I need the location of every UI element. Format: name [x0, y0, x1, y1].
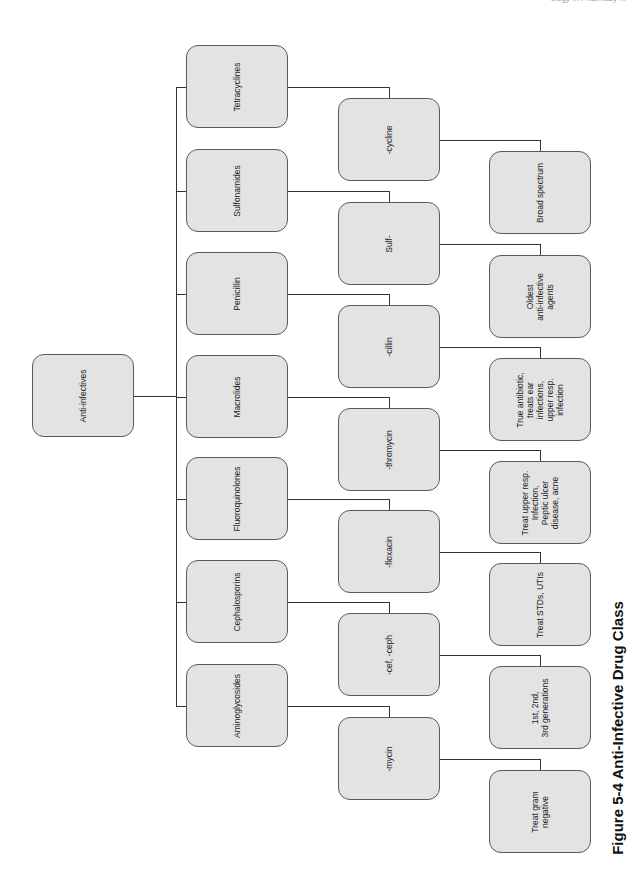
- suffix-note-connector-h: [440, 450, 540, 451]
- class-node-label: Cephalosporins: [232, 562, 242, 642]
- suffix-note-connector-v: [540, 655, 541, 666]
- suffix-node: -floxacin: [338, 510, 440, 593]
- note-node: Treat STDs, UTIs: [489, 563, 591, 646]
- suffix-node-label: -mycin: [384, 719, 394, 799]
- note-node: Oldest anti-infective agents: [489, 255, 591, 338]
- suffix-node-label: -cef, -ceph: [384, 615, 394, 695]
- figure-caption: Figure 5-4 Anti-Infective Drug Class: [609, 601, 626, 855]
- class-node: Tetracyclines: [186, 45, 288, 128]
- class-stub-connector: [176, 87, 186, 88]
- class-suffix-connector-v: [389, 87, 390, 98]
- note-node-label: Broad spectrum: [535, 153, 545, 233]
- class-suffix-connector-h: [288, 602, 389, 603]
- suffix-note-connector-h: [440, 244, 540, 245]
- class-node-label: Fluoroquinolones: [232, 459, 242, 539]
- class-suffix-connector-h: [288, 397, 389, 398]
- class-suffix-connector-v: [389, 397, 390, 408]
- suffix-node-label: Sulf-: [384, 204, 394, 284]
- root-node: Anti-infectives: [32, 354, 134, 437]
- class-node-label: Sulfonamides: [232, 151, 242, 231]
- class-suffix-connector-h: [288, 87, 389, 88]
- class-node: Aminoglycosides: [186, 664, 288, 747]
- note-node: 1st, 2nd, 3rd generations: [489, 666, 591, 749]
- class-suffix-connector-v: [389, 499, 390, 510]
- suffix-note-connector-h: [440, 552, 540, 553]
- suffix-node-label: -floxacin: [384, 512, 394, 592]
- suffix-note-connector-v: [540, 450, 541, 461]
- suffix-node: -mycin: [338, 717, 440, 800]
- class-stub-connector: [176, 191, 186, 192]
- class-node: Sulfonamides: [186, 149, 288, 232]
- class-suffix-connector-h: [288, 499, 389, 500]
- class-node: Fluoroquinolones: [186, 457, 288, 540]
- note-node-label: Treat upper resp. Infection, Peptic ulce…: [520, 463, 560, 543]
- suffix-node-label: -cycline: [384, 100, 394, 180]
- class-stub-connector: [176, 602, 186, 603]
- suffix-node: -cef, -ceph: [338, 613, 440, 696]
- note-node: Treat upper resp. Infection, Peptic ulce…: [489, 461, 591, 544]
- suffix-note-connector-h: [440, 347, 540, 348]
- suffix-node-label: -thromycin: [384, 410, 394, 490]
- suffix-note-connector-v: [540, 140, 541, 151]
- note-node-label: Oldest anti-infective agents: [525, 257, 555, 337]
- class-suffix-connector-h: [288, 294, 389, 295]
- class-node-label: Tetracyclines: [232, 47, 242, 127]
- note-node-label: True antibiotic, treats ear infections, …: [515, 360, 565, 440]
- running-header: ology ... Pharmacy ...: [551, 0, 626, 3]
- note-node: True antibiotic, treats ear infections, …: [489, 358, 591, 441]
- class-node-label: Macrolides: [232, 357, 242, 437]
- note-node-label: Treat gram negative: [530, 772, 550, 852]
- suffix-node-label: -cillin: [384, 307, 394, 387]
- class-suffix-connector-v: [389, 706, 390, 717]
- class-node: Penicillin: [186, 252, 288, 335]
- class-stub-connector: [176, 706, 186, 707]
- suffix-node: -cycline: [338, 98, 440, 181]
- class-suffix-connector-h: [288, 706, 389, 707]
- suffix-note-connector-h: [440, 140, 540, 141]
- note-node-label: 1st, 2nd, 3rd generations: [530, 668, 550, 748]
- root-connector: [134, 396, 176, 397]
- suffix-note-connector-v: [540, 552, 541, 563]
- suffix-note-connector-v: [540, 244, 541, 255]
- class-suffix-connector-v: [389, 191, 390, 202]
- class-suffix-connector-v: [389, 294, 390, 305]
- suffix-node: -cillin: [338, 305, 440, 388]
- class-node-label: Penicillin: [232, 254, 242, 334]
- root-label: Anti-infectives: [78, 356, 88, 436]
- class-node: Cephalosporins: [186, 560, 288, 643]
- suffix-note-connector-h: [440, 655, 540, 656]
- note-node-label: Treat STDs, UTIs: [535, 565, 545, 645]
- class-suffix-connector-v: [389, 602, 390, 613]
- suffix-node: Sulf-: [338, 202, 440, 285]
- suffix-note-connector-v: [540, 759, 541, 770]
- class-node: Macrolides: [186, 355, 288, 438]
- class-node-label: Aminoglycosides: [232, 666, 242, 746]
- class-stub-connector: [176, 294, 186, 295]
- note-node: Treat gram negative: [489, 770, 591, 853]
- suffix-node: -thromycin: [338, 408, 440, 491]
- class-suffix-connector-h: [288, 191, 389, 192]
- note-node: Broad spectrum: [489, 151, 591, 234]
- class-stub-connector: [176, 499, 186, 500]
- suffix-note-connector-v: [540, 347, 541, 358]
- class-stub-connector: [176, 397, 186, 398]
- suffix-note-connector-h: [440, 759, 540, 760]
